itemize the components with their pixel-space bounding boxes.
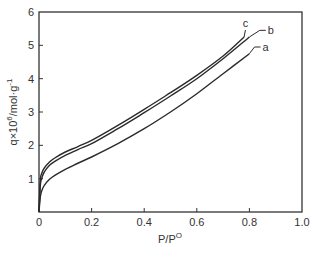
series-b-line bbox=[39, 37, 249, 212]
x-axis-title: P/PO bbox=[158, 231, 182, 245]
x-tick-label: 0 bbox=[36, 216, 42, 228]
x-tick-label: 0.6 bbox=[189, 216, 204, 228]
series-c-leader bbox=[244, 30, 245, 37]
series-c-line bbox=[39, 37, 244, 212]
isotherm-chart: 00.20.40.60.81.0123456 abc P/PO q×106/mo… bbox=[0, 0, 315, 253]
series-a-label: a bbox=[263, 41, 270, 53]
series-lines bbox=[39, 37, 249, 212]
series-c-label: c bbox=[243, 17, 249, 29]
y-tick-label: 1 bbox=[28, 173, 34, 185]
y-tick-label: 4 bbox=[28, 73, 34, 85]
y-tick-label: 2 bbox=[28, 139, 34, 151]
x-tick-label: 0.2 bbox=[84, 216, 99, 228]
series-a-leader bbox=[249, 47, 260, 54]
series-a-line bbox=[39, 54, 249, 212]
y-tick-label: 6 bbox=[28, 6, 34, 18]
y-axis-title: q×106/mol·g-1 bbox=[5, 78, 19, 145]
x-tick-label: 1.0 bbox=[294, 216, 309, 228]
x-tick-label: 0.4 bbox=[137, 216, 152, 228]
curve-labels: abc bbox=[243, 17, 274, 54]
axis-ticks: 00.20.40.60.81.0123456 bbox=[28, 6, 310, 228]
series-b-leader bbox=[249, 30, 265, 37]
y-tick-label: 3 bbox=[28, 106, 34, 118]
x-tick-label: 0.8 bbox=[242, 216, 257, 228]
series-b-label: b bbox=[268, 24, 274, 36]
y-tick-label: 5 bbox=[28, 39, 34, 51]
